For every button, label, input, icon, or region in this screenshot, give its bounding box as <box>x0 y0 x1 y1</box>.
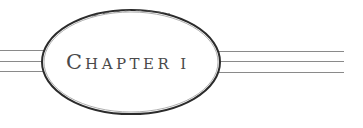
chapter-title: CHAPTERI <box>66 50 189 76</box>
chapter-title-rest: HAPTER <box>85 55 172 73</box>
chapter-title-initial: C <box>66 50 85 74</box>
chapter-number: I <box>180 55 189 73</box>
